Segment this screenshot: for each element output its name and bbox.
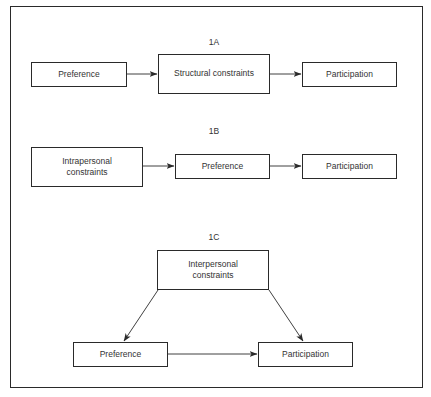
- node-intrapersonal-constraints-1b: Intrapersonal constraints: [31, 147, 143, 187]
- panel-label-1b: 1B: [209, 126, 219, 136]
- panel-label-1a: 1A: [209, 37, 219, 47]
- node-interpersonal-constraints-1c: Interpersonal constraints: [157, 250, 269, 290]
- node-participation-1b: Participation: [302, 154, 397, 179]
- node-participation-1a: Participation: [302, 62, 397, 87]
- node-label: Preference: [202, 161, 244, 172]
- node-preference-1c: Preference: [73, 342, 168, 367]
- node-structural-constraints-1a: Structural constraints: [158, 54, 270, 94]
- node-label: Participation: [326, 69, 373, 80]
- node-preference-1b: Preference: [175, 154, 270, 179]
- node-label: Preference: [100, 349, 142, 360]
- node-preference-1a: Preference: [31, 62, 127, 87]
- node-participation-1c: Participation: [258, 342, 353, 367]
- panel-label-1c: 1C: [209, 232, 220, 242]
- node-label: Structural constraints: [174, 68, 254, 79]
- node-label: Intrapersonal constraints: [46, 156, 128, 179]
- node-label: Participation: [282, 349, 329, 360]
- node-label: Interpersonal constraints: [176, 259, 250, 282]
- node-label: Participation: [326, 161, 373, 172]
- node-label: Preference: [58, 69, 100, 80]
